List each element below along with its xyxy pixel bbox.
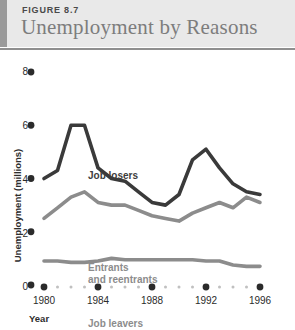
annotation-job-leavers: Job leavers <box>88 318 143 330</box>
x-tick-label-1984: 1984 <box>81 295 115 306</box>
x-tick-dot-1989 <box>164 286 167 289</box>
figure-title: Unemployment by Reasons <box>21 15 258 40</box>
x-tick-label-1980: 1980 <box>27 295 61 306</box>
x-tick-dot-1994 <box>232 286 235 289</box>
series-layer <box>44 125 260 266</box>
y-tick-dot-8 <box>28 69 35 76</box>
x-tick-dot-1981 <box>56 286 59 289</box>
y-axis-tick-dots <box>28 69 35 289</box>
x-tick-dot-1991 <box>191 286 194 289</box>
x-tick-dot-1983 <box>83 286 86 289</box>
series-line-entrants-and-reentrants <box>44 192 260 221</box>
figure-number: FIGURE 8.7 <box>22 5 79 15</box>
annotation-entrants: Entrants and reentrants <box>88 262 157 285</box>
annotation-entrants-line2: and reentrants <box>88 274 157 286</box>
x-tick-label-1992: 1992 <box>189 295 223 306</box>
x-tick-label-1988: 1988 <box>135 295 169 306</box>
x-tick-dot-1986 <box>124 286 127 289</box>
x-tick-dot-1993 <box>218 286 221 289</box>
x-tick-dot-1992 <box>203 284 210 291</box>
plot-area: 8 6 4 2 0 Unemployment (millions) 1980 1… <box>0 50 295 322</box>
y-tick-dot-2 <box>28 228 35 235</box>
figure-header: FIGURE 8.7 Unemployment by Reasons <box>0 0 295 47</box>
x-tick-dot-1990 <box>178 286 181 289</box>
annotation-job-losers: Job losers <box>88 170 138 182</box>
x-axis-label: Year <box>29 313 49 324</box>
y-tick-dot-0 <box>28 282 35 289</box>
y-tick-label-8: 8 <box>14 66 28 77</box>
x-tick-dot-1995 <box>245 286 248 289</box>
y-tick-label-0: 0 <box>14 281 28 292</box>
y-tick-dot-6 <box>28 122 35 129</box>
x-tick-dot-1987 <box>137 286 140 289</box>
x-tick-dot-1985 <box>110 286 113 289</box>
x-tick-label-1996: 1996 <box>243 295 277 306</box>
x-tick-dot-1996 <box>257 284 264 291</box>
y-tick-dot-4 <box>28 175 35 182</box>
x-tick-dot-1982 <box>70 286 73 289</box>
annotation-entrants-line1: Entrants <box>88 262 157 274</box>
y-tick-label-6: 6 <box>14 120 28 131</box>
header-accent-bar <box>0 0 7 47</box>
x-tick-dot-1980 <box>41 284 48 291</box>
y-axis-label: Unemployment (millions) <box>12 131 23 281</box>
